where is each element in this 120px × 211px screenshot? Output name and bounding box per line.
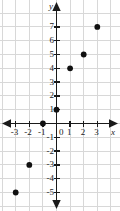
y-tick-label-5: 5	[48, 50, 54, 59]
coordinate-plane-chart: -3-2-10123-5-4-3-2-11234567 x y	[0, 0, 120, 211]
x-tick-label-neg2: -2	[24, 128, 32, 137]
y-tick-label-neg2: -2	[43, 147, 54, 156]
data-point	[54, 107, 60, 113]
x-tick-label-0: 0	[59, 128, 64, 137]
y-tick-label-neg4: -4	[43, 174, 54, 183]
chart-data-points	[0, 0, 120, 211]
y-tick-label-1: 1	[48, 105, 54, 114]
x-axis-label: x	[111, 128, 115, 137]
y-tick-label-7: 7	[48, 22, 54, 31]
data-point	[81, 52, 87, 58]
x-tick-label-1: 1	[67, 128, 72, 137]
y-tick-label-2: 2	[48, 91, 54, 100]
x-tick-label-neg3: -3	[11, 128, 19, 137]
y-tick-label-4: 4	[48, 64, 54, 73]
y-tick-label-neg1: -1	[43, 133, 54, 142]
y-tick-label-6: 6	[48, 36, 54, 45]
data-point	[13, 190, 19, 196]
data-point	[94, 24, 100, 30]
data-point	[26, 162, 32, 168]
y-tick-label-neg5: -5	[43, 188, 54, 197]
y-tick-label-3: 3	[48, 78, 54, 87]
x-tick-label-2: 2	[81, 128, 86, 137]
data-point	[67, 65, 73, 71]
y-axis-label: y	[49, 2, 53, 11]
y-tick-label-neg3: -3	[43, 160, 54, 169]
data-point	[40, 121, 46, 127]
x-tick-label-3: 3	[94, 128, 99, 137]
